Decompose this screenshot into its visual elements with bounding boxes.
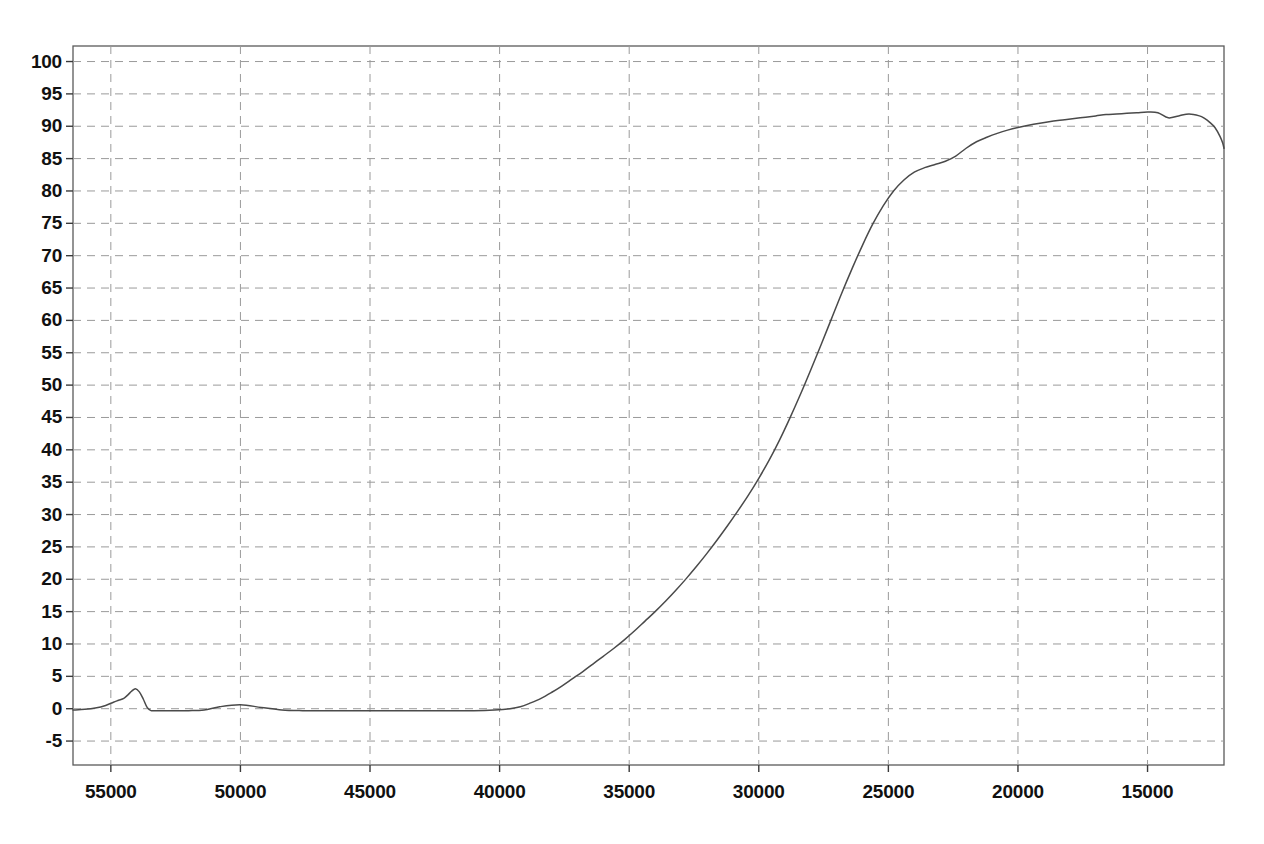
y-tick-label: 70 — [4, 245, 62, 267]
spectrum-plot — [0, 0, 1264, 844]
y-tick-label: 5 — [4, 665, 62, 687]
y-tick-label: 25 — [4, 536, 62, 558]
y-tick-label: 45 — [4, 406, 62, 428]
y-tick-label: 65 — [4, 277, 62, 299]
y-axis-ticks — [66, 62, 73, 742]
plot-border — [73, 46, 1224, 765]
y-tick-label: 15 — [4, 601, 62, 623]
plot-frame — [73, 46, 1224, 765]
x-tick-label: 55000 — [51, 781, 171, 803]
y-tick-label: 60 — [4, 309, 62, 331]
series-line-transmittance — [73, 112, 1224, 711]
x-tick-label: 25000 — [828, 781, 948, 803]
horizontal-gridlines — [73, 62, 1224, 742]
y-tick-label: 85 — [4, 148, 62, 170]
x-tick-label: 20000 — [958, 781, 1078, 803]
vertical-gridlines — [111, 46, 1148, 765]
y-tick-label: 0 — [4, 698, 62, 720]
x-tick-label: 15000 — [1088, 781, 1208, 803]
y-tick-label: 10 — [4, 633, 62, 655]
y-tick-label: 30 — [4, 504, 62, 526]
y-tick-label: -5 — [4, 730, 62, 752]
x-tick-label: 30000 — [699, 781, 819, 803]
x-tick-label: 40000 — [440, 781, 560, 803]
y-tick-label: 55 — [4, 342, 62, 364]
x-tick-label: 50000 — [180, 781, 300, 803]
y-tick-label: 75 — [4, 212, 62, 234]
y-tick-label: 90 — [4, 115, 62, 137]
y-tick-label: 20 — [4, 568, 62, 590]
y-tick-label: 50 — [4, 374, 62, 396]
y-tick-label: 100 — [4, 51, 62, 73]
x-tick-label: 45000 — [310, 781, 430, 803]
y-tick-label: 95 — [4, 83, 62, 105]
chart-container: -505101520253035404550556065707580859095… — [0, 0, 1264, 844]
y-tick-label: 80 — [4, 180, 62, 202]
y-tick-label: 40 — [4, 439, 62, 461]
y-tick-label: 35 — [4, 471, 62, 493]
data-series-group — [73, 112, 1224, 711]
x-tick-label: 35000 — [569, 781, 689, 803]
x-axis-ticks — [111, 765, 1148, 772]
